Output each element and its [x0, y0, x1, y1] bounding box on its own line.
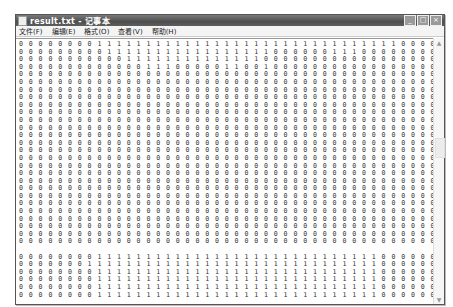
vertical-scrollbar[interactable]: ▲ ▼ — [433, 38, 444, 304]
scroll-thumb[interactable] — [435, 138, 445, 158]
text-line: 0 0 0 0 0 0 0 0 0 0 0 0 0 0 0 0 0 0 0 0 … — [19, 238, 433, 246]
menu-format[interactable]: 格式(O) — [84, 26, 109, 36]
menu-file[interactable]: 文件(F) — [19, 26, 43, 36]
close-button[interactable]: × — [430, 15, 442, 26]
text-editor-area[interactable]: 0 0 0 0 0 0 0 0 1 1 1 1 1 1 1 1 1 1 1 1 … — [16, 38, 433, 304]
menu-bar: 文件(F) 编辑(E) 格式(O) 查看(V) 帮助(H) — [16, 26, 444, 37]
scroll-up-icon[interactable]: ▲ — [434, 38, 444, 47]
title-bar[interactable]: result.txt - 记事本 _ □ × — [16, 15, 444, 26]
notepad-window: result.txt - 记事本 _ □ × 文件(F) 编辑(E) 格式(O)… — [15, 14, 445, 305]
minimize-button[interactable]: _ — [404, 15, 416, 26]
menu-edit[interactable]: 编辑(E) — [52, 26, 76, 36]
menu-view[interactable]: 查看(V) — [118, 26, 142, 36]
menu-help[interactable]: 帮助(H) — [152, 26, 177, 36]
notepad-icon — [18, 16, 27, 26]
maximize-button[interactable]: □ — [417, 15, 429, 26]
text-line: 0 0 0 0 0 0 0 0 1 1 1 1 1 1 1 1 1 1 1 1 … — [19, 292, 433, 300]
window-controls: _ □ × — [404, 15, 442, 26]
scroll-down-icon[interactable]: ▼ — [434, 295, 444, 304]
window-title: result.txt - 记事本 — [30, 15, 110, 26]
